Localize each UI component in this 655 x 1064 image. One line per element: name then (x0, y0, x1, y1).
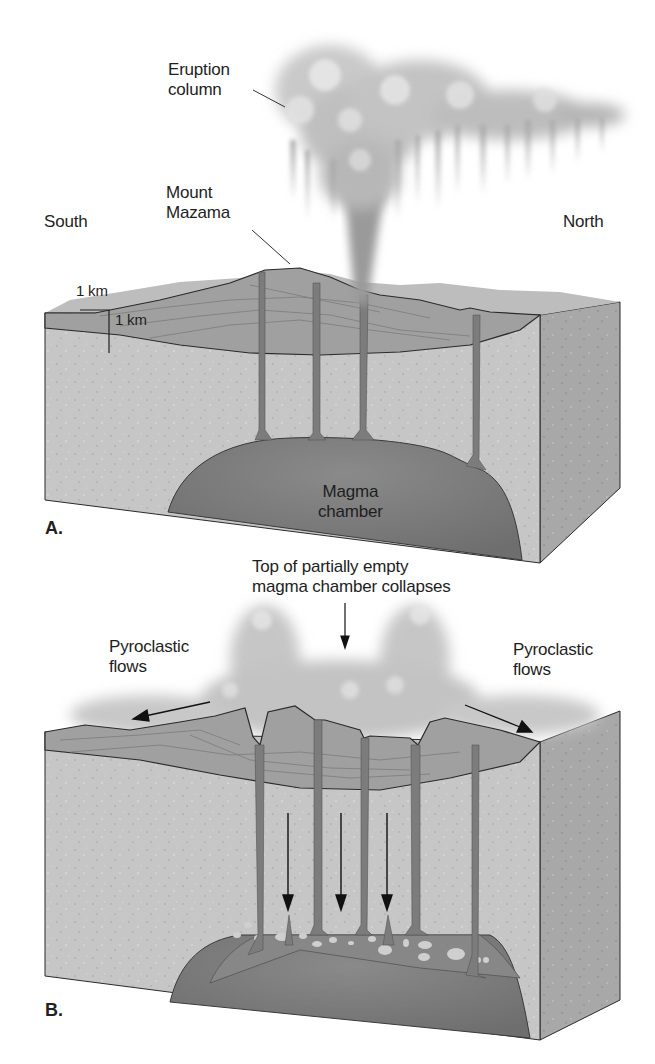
label-scale-horizontal: 1 km (76, 282, 108, 299)
collapse-arrow (341, 603, 349, 648)
caldera-formation-diagram (0, 0, 655, 1064)
label-magma-chamber: Magma chamber (318, 482, 383, 522)
label-scale-vertical: 1 km (115, 311, 147, 328)
label-eruption-column: Eruption column (168, 60, 230, 100)
down-arrow-head-icon (341, 636, 349, 648)
panel-a-letter: A. (45, 518, 63, 539)
label-collapse-note: Top of partially empty magma chamber col… (252, 557, 451, 597)
panel-b-letter: B. (45, 1000, 63, 1021)
label-pyroclastic-flows-right: Pyroclastic flows (513, 640, 593, 680)
label-south: South (44, 212, 87, 232)
eruption-column-cloud (275, 45, 625, 305)
block-b-side-face (540, 711, 620, 1040)
label-mount-mazama: Mount Mazama (166, 183, 230, 223)
block-a-side-face (540, 302, 620, 563)
label-north: North (563, 212, 604, 232)
mount-mazama-leader (252, 230, 290, 264)
label-pyroclastic-flows-left: Pyroclastic flows (109, 637, 189, 677)
